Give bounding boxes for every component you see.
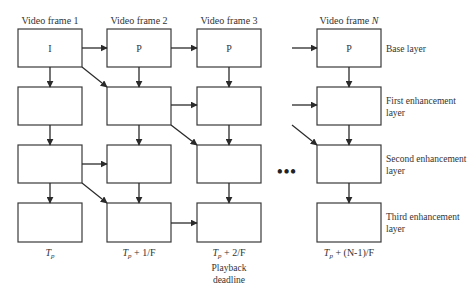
frame1-type-label: I bbox=[48, 43, 51, 54]
time-label-2: Tp + 1/F bbox=[122, 247, 155, 262]
time-label-1: Tp bbox=[45, 247, 54, 262]
frameN-second-enh-box bbox=[317, 145, 381, 183]
frame3-type-label: P bbox=[226, 43, 232, 54]
ellipsis-icon: ••• bbox=[277, 163, 297, 181]
time-label-N: Tp + (N-1)/F bbox=[324, 247, 374, 262]
frame-header-1: Video frame 1 bbox=[21, 15, 78, 26]
frame3-first-enh-box bbox=[197, 87, 261, 125]
frame1-first-enh-box bbox=[18, 87, 82, 125]
time-suffix: + 1/F bbox=[132, 247, 156, 258]
arrow-f1-second-to-f2-third bbox=[82, 183, 107, 203]
time-suffix: + (N-1)/F bbox=[333, 247, 374, 258]
frameN-first-enh-box bbox=[317, 87, 381, 125]
playback-deadline-label: Playback deadline bbox=[212, 262, 247, 286]
frame-header-N: Video frame N bbox=[320, 15, 379, 26]
time-label-3: Tp + 2/F bbox=[212, 247, 245, 262]
frame1-second-enh-box bbox=[18, 145, 82, 183]
frame3-third-enh-box bbox=[197, 203, 261, 242]
arrow-f2-first-to-f3-second bbox=[171, 125, 197, 145]
layer-label-first-enhancement: First enhancement layer bbox=[386, 95, 466, 119]
time-sub: p bbox=[51, 252, 55, 260]
frame3-second-enh-box bbox=[197, 145, 261, 183]
playback-deadline-line2: deadline bbox=[212, 274, 247, 286]
frame-header-3: Video frame 3 bbox=[200, 15, 257, 26]
frame-header-2: Video frame 2 bbox=[110, 15, 167, 26]
frameN-type-label: P bbox=[346, 43, 352, 54]
frame2-third-enh-box bbox=[107, 203, 171, 242]
arrow-into-fN-second bbox=[292, 125, 317, 145]
layer-label-second-enhancement: Second enhancement layer bbox=[386, 153, 474, 177]
arrow-f1-base-to-f2-first bbox=[82, 67, 107, 87]
layer-label-base: Base layer bbox=[386, 43, 476, 55]
time-suffix: + 2/F bbox=[222, 247, 246, 258]
frameN-third-enh-box bbox=[317, 203, 381, 242]
layer-label-third-enhancement: Third enhancement layer bbox=[386, 211, 466, 235]
frame2-second-enh-box bbox=[107, 145, 171, 183]
frame2-first-enh-box bbox=[107, 87, 171, 125]
playback-deadline-line1: Playback bbox=[212, 262, 247, 274]
frame2-type-label: P bbox=[136, 43, 142, 54]
frame-header-N-text: Video frame N bbox=[320, 15, 379, 26]
frame1-third-enh-box bbox=[18, 203, 82, 242]
